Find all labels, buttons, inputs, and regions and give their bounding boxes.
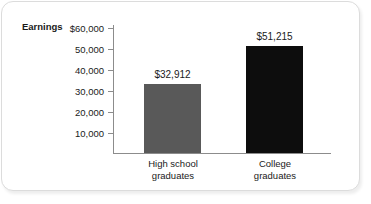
- earnings-bar-chart: Earnings $60,000 50,000 40,000 30,000 20…: [0, 0, 371, 204]
- bar-college-graduates: [246, 46, 303, 153]
- y-axis-tick-mark: [108, 133, 113, 134]
- category-label-line2: graduates: [133, 170, 213, 182]
- x-axis-category-college: College graduates: [235, 158, 315, 181]
- x-axis-category-high-school: High school graduates: [133, 158, 213, 181]
- y-axis-tick-mark: [108, 91, 113, 92]
- y-axis-tick-mark: [108, 49, 113, 50]
- y-tick-label: 40,000: [46, 66, 104, 76]
- y-tick-label: 20,000: [46, 108, 104, 118]
- bar-value-label-high-school: $32,912: [144, 70, 201, 80]
- y-tick-label: 30,000: [46, 87, 104, 97]
- y-axis-tick-labels: $60,000 50,000 40,000 30,000 20,000 10,0…: [46, 0, 104, 204]
- category-label-line1: College: [235, 158, 315, 170]
- y-axis-tick-mark: [108, 28, 113, 29]
- bar-high-school-graduates: [144, 84, 201, 153]
- category-label-line2: graduates: [235, 170, 315, 182]
- y-tick-label: $60,000: [46, 24, 104, 34]
- y-tick-label: 10,000: [46, 129, 104, 139]
- x-axis-line: [113, 153, 331, 154]
- category-label-line1: High school: [133, 158, 213, 170]
- y-axis-tick-mark: [108, 112, 113, 113]
- y-axis-tick-mark: [108, 70, 113, 71]
- y-axis-line: [113, 25, 114, 154]
- y-tick-label: 50,000: [46, 45, 104, 55]
- bar-value-label-college: $51,215: [246, 32, 303, 42]
